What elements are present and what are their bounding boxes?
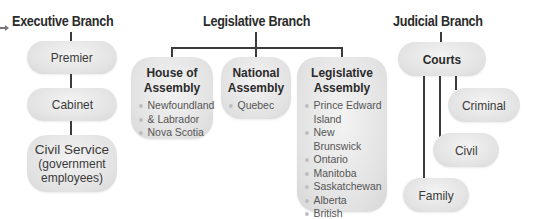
province-list: Quebec	[221, 99, 291, 113]
node-civil: Civil	[433, 133, 499, 167]
body-title: House ofAssembly	[134, 65, 209, 95]
list-item: Quebec	[229, 99, 288, 113]
province-list: Prince Edward Island New Brunswick Ontar…	[297, 99, 387, 219]
connector	[423, 76, 425, 179]
judicial-branch-title: Judicial Branch	[393, 13, 483, 29]
list-item: British Columbia	[305, 207, 383, 219]
node-courts: Courts	[398, 42, 486, 76]
connector	[70, 121, 72, 135]
node-national-assembly: NationalAssembly Quebec	[221, 57, 291, 119]
list-item: New Brunswick	[305, 126, 383, 153]
connector	[439, 76, 441, 137]
legislative-branch-title: Legislative Branch	[203, 13, 310, 29]
list-item: & Labrador	[139, 113, 209, 127]
body-title: LegislativeAssembly	[301, 65, 384, 95]
list-item: Ontario	[305, 153, 383, 167]
executive-branch-title: Executive Branch	[12, 13, 113, 29]
civil-service-subtitle: (government	[27, 157, 117, 171]
connector	[70, 74, 72, 88]
node-legislative-assembly: LegislativeAssembly Prince Edward Island…	[297, 57, 387, 212]
list-item: Alberta	[305, 194, 383, 208]
province-list: Newfoundland & Labrador Nova Scotia	[131, 99, 213, 140]
node-cabinet: Cabinet	[27, 88, 117, 121]
body-title: NationalAssembly	[224, 65, 288, 95]
list-item: Nova Scotia	[139, 126, 209, 140]
node-family: Family	[403, 178, 469, 212]
node-house-of-assembly: House ofAssembly Newfoundland & Labrador…	[131, 57, 213, 139]
list-item: Manitoba	[305, 167, 383, 181]
arrow-icon	[0, 27, 6, 29]
list-item: Saskatchewan	[305, 180, 383, 194]
connector	[455, 76, 457, 90]
node-criminal: Criminal	[448, 88, 520, 122]
list-item: Island	[305, 113, 383, 127]
civil-service-title: Civil Service	[27, 142, 117, 157]
list-item: Prince Edward	[305, 99, 383, 113]
civil-service-subtitle: employees)	[27, 171, 117, 185]
connector	[171, 47, 343, 49]
node-premier: Premier	[27, 41, 117, 74]
node-civil-service: Civil Service (government employees)	[27, 135, 117, 192]
list-item: Newfoundland	[139, 99, 209, 113]
connector	[440, 32, 442, 42]
